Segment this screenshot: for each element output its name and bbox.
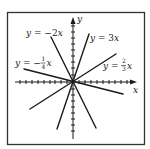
label-y-3x: y = 3x (89, 33, 119, 43)
svg-text:4: 4 (42, 63, 46, 70)
y-axis-arrow-icon (71, 17, 76, 24)
diagram-canvas: x y y = −2x y = 3x y = − 1 4 x y = 2 3 x (0, 0, 150, 149)
svg-text:x: x (127, 61, 132, 71)
svg-text:y = −: y = − (14, 58, 41, 68)
svg-text:1: 1 (42, 55, 46, 62)
x-axis-arrow-icon (130, 80, 137, 85)
svg-text:3: 3 (122, 65, 126, 72)
svg-text:y =: y = (102, 61, 119, 71)
svg-text:x: x (47, 58, 52, 68)
label-y-neg-quarter-x: y = − 1 4 x (14, 55, 52, 70)
x-axis-label: x (133, 85, 138, 95)
label-y-neg2x: y = −2x (25, 28, 63, 38)
y-axis-label: y (76, 14, 83, 24)
svg-text:2: 2 (122, 57, 126, 64)
